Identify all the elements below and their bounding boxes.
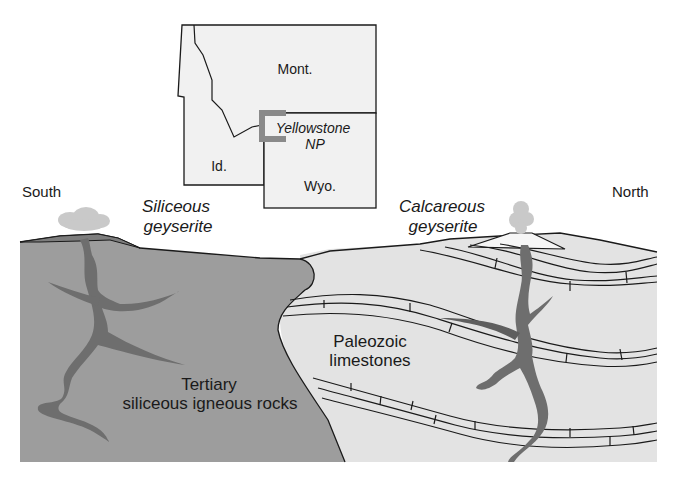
label-siliceous-line2: geyserite	[144, 217, 213, 236]
label-paleozoic-line2: limestones	[329, 351, 410, 370]
label-wyoming: Wyo.	[304, 178, 336, 194]
label-calcareous-line2: geyserite	[409, 217, 478, 236]
inset-map: Mont. Id. Wyo. Yellowstone NP	[178, 25, 376, 208]
geyser-cross-section-diagram: Mont. Id. Wyo. Yellowstone NP	[0, 0, 675, 486]
steam-cloud-south	[58, 207, 110, 231]
label-south: South	[22, 183, 61, 200]
label-calcareous-line1: Calcareous	[399, 197, 485, 216]
label-montana: Mont.	[277, 61, 312, 77]
steam-cloud-north	[509, 201, 534, 234]
label-idaho: Id.	[211, 158, 227, 174]
label-siliceous-line1: Siliceous	[142, 197, 211, 216]
label-yellowstone: Yellowstone	[276, 120, 351, 136]
label-north: North	[612, 183, 649, 200]
label-tertiary-line1: Tertiary	[181, 375, 237, 394]
label-paleozoic-line1: Paleozoic	[333, 332, 407, 351]
label-tertiary-line2: siliceous igneous rocks	[123, 394, 298, 413]
label-np: NP	[305, 136, 325, 152]
